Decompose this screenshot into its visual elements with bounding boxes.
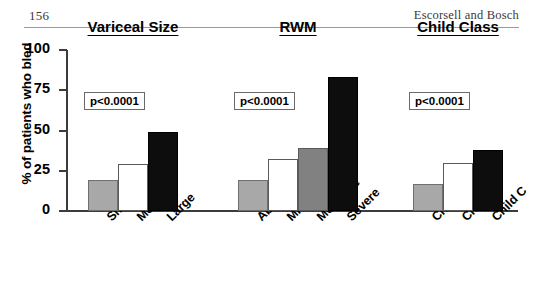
bar-mild — [268, 159, 298, 211]
x-axis-labels: SmallMediumLargeAbsentMildModerateSevere… — [68, 214, 520, 294]
y-axis-tick-label: 50 — [16, 121, 50, 137]
y-axis-tick-label: 0 — [16, 201, 50, 217]
y-axis-tick-label: 100 — [16, 40, 50, 56]
bar-small — [88, 180, 118, 211]
plot-area — [68, 50, 518, 211]
group-title-child-class: Child Class — [393, 18, 523, 35]
bar-child-b — [443, 163, 473, 211]
bar-child-a — [413, 184, 443, 211]
group-title-rwm: RWM — [218, 18, 378, 35]
bar-absent — [238, 180, 268, 211]
y-axis-tick-label: 75 — [16, 80, 50, 96]
p-value-box: p<0.0001 — [234, 92, 295, 110]
p-value-box: p<0.0001 — [409, 92, 470, 110]
bar-child-c — [473, 150, 503, 211]
bar-large — [148, 132, 178, 211]
page-number: 156 — [29, 8, 49, 24]
bar-moderate — [298, 148, 328, 211]
bar-chart-figure: % of patients who bled 0255075100 Varice… — [0, 30, 543, 296]
bars-layer — [68, 50, 518, 211]
bar-severe — [328, 77, 358, 211]
y-axis-scale: 0255075100 — [0, 30, 66, 230]
p-value-box: p<0.0001 — [84, 92, 145, 110]
bar-medium — [118, 164, 148, 211]
group-title-variceal-size: Variceal Size — [68, 18, 198, 35]
y-axis-tick-label: 25 — [16, 161, 50, 177]
